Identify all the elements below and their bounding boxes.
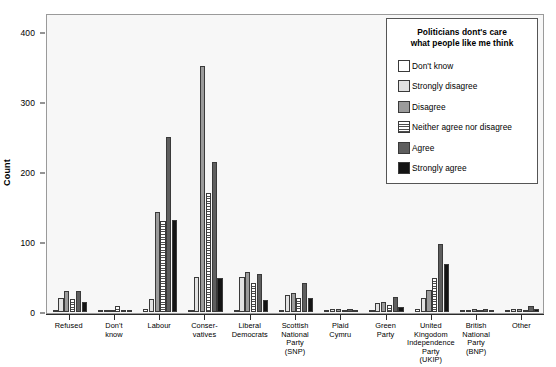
legend-item: Disagree: [398, 100, 446, 113]
legend-label: Strongly agree: [412, 163, 467, 173]
x-tick-mark: [159, 315, 160, 320]
legend-swatch: [398, 101, 410, 113]
bar: [115, 306, 120, 312]
bar: [505, 310, 510, 312]
bar: [82, 302, 87, 313]
bar: [375, 303, 380, 312]
bar: [432, 278, 437, 312]
y-tick-label: 400: [21, 28, 35, 38]
bar: [245, 272, 250, 312]
bar: [64, 291, 69, 312]
y-axis: Count 0100200300400: [0, 0, 46, 320]
bar: [188, 310, 193, 312]
x-tick-mark: [340, 315, 341, 320]
bar: [534, 309, 539, 313]
x-axis-label: Other: [512, 322, 531, 331]
bar: [121, 310, 126, 312]
bar: [489, 310, 494, 312]
y-tick-mark: [40, 173, 45, 174]
y-tick-label: 300: [21, 98, 35, 108]
y-tick-mark: [40, 103, 45, 104]
bar: [104, 310, 109, 312]
bar: [472, 309, 477, 312]
bar: [206, 193, 211, 312]
bar: [353, 310, 358, 312]
bar: [70, 299, 75, 312]
bar: [369, 310, 374, 312]
bar: [149, 299, 154, 312]
y-axis-title: Count: [2, 159, 12, 186]
chart-root: Count 0100200300400 Politicians dont's c…: [0, 0, 556, 367]
bar: [347, 309, 352, 313]
x-tick-mark: [476, 315, 477, 320]
legend-swatch: [398, 121, 410, 133]
bar: [387, 305, 392, 312]
bar: [336, 309, 341, 313]
bar: [143, 309, 148, 313]
x-axis-label: Plaid Cymru: [329, 322, 351, 339]
bar: [342, 310, 347, 312]
bar: [234, 310, 239, 312]
bar: [212, 162, 217, 312]
legend-item: Strongly disagree: [398, 80, 477, 93]
legend-item: Don't know: [398, 59, 453, 72]
bar: [438, 244, 443, 312]
x-axis-label: Green Party: [375, 322, 396, 339]
bar: [200, 66, 205, 312]
x-axis-label: Don't know: [105, 322, 122, 339]
legend-swatch: [398, 60, 410, 72]
legend-label: Agree: [412, 143, 434, 153]
bar: [324, 310, 329, 312]
bar: [172, 220, 177, 312]
bar: [460, 310, 465, 312]
bar: [127, 310, 132, 312]
bar: [523, 310, 528, 312]
bar: [308, 298, 313, 312]
legend-swatch: [398, 162, 410, 174]
legend-item: Agree: [398, 141, 434, 154]
bar: [166, 137, 171, 312]
bar: [421, 298, 426, 312]
x-tick-mark: [295, 315, 296, 320]
y-tick-label: 0: [30, 308, 35, 318]
legend-label: Disagree: [412, 102, 446, 112]
bar: [160, 221, 165, 312]
x-axis-label: United Kingodom Independence Party (UKIP…: [407, 322, 454, 365]
bar: [291, 293, 296, 312]
legend-swatch: [398, 142, 410, 154]
bar: [381, 302, 386, 313]
legend-item: Strongly agree: [398, 162, 467, 175]
bar: [517, 309, 522, 312]
bar: [415, 309, 420, 312]
bar: [58, 298, 63, 312]
bar: [330, 309, 335, 312]
x-axis-label: British National Party (BNP): [462, 322, 490, 356]
bar: [528, 306, 533, 312]
legend-label: Don't know: [412, 61, 453, 71]
bar: [444, 264, 449, 312]
legend-title: Politicians dont's care what people like…: [387, 27, 537, 48]
bar: [251, 283, 256, 312]
bar: [217, 278, 222, 312]
bar: [194, 277, 199, 312]
x-tick-mark: [521, 315, 522, 320]
bar: [466, 310, 471, 312]
bar: [109, 310, 114, 312]
y-tick-label: 100: [21, 238, 35, 248]
bar: [511, 309, 516, 312]
bar: [239, 277, 244, 312]
legend-swatch: [398, 80, 410, 92]
bar: [279, 310, 284, 312]
y-tick-label: 200: [21, 168, 35, 178]
y-tick-mark: [40, 243, 45, 244]
chart-legend: Politicians dont's care what people like…: [386, 18, 538, 184]
x-axis-label: Refused: [55, 322, 83, 331]
bar: [76, 291, 81, 312]
legend-item: Neither agree nor disagree: [398, 121, 512, 134]
bar: [263, 300, 268, 312]
bar: [426, 290, 431, 312]
x-tick-mark: [114, 315, 115, 320]
x-axis-label: Liberal Democrats: [232, 322, 268, 339]
y-tick-mark: [40, 33, 45, 34]
bar: [302, 283, 307, 312]
